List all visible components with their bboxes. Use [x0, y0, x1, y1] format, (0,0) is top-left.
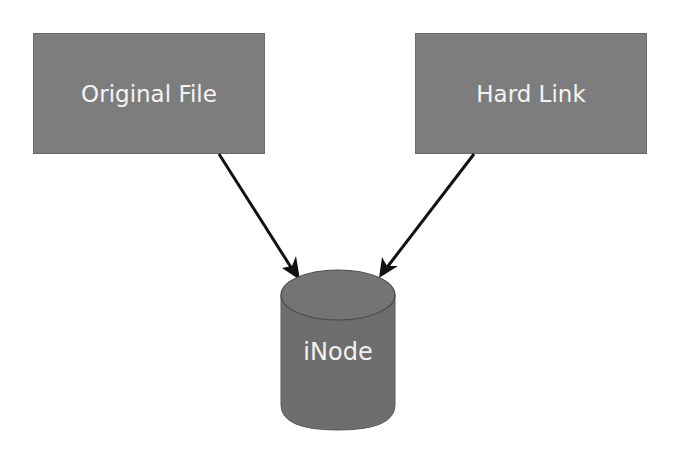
edge-hardlink-to-inode	[379, 154, 474, 278]
diagram-canvas	[0, 0, 679, 451]
arrowhead-icon	[379, 257, 398, 278]
edge-original-to-inode	[219, 154, 300, 280]
node-label: iNode	[280, 338, 396, 366]
